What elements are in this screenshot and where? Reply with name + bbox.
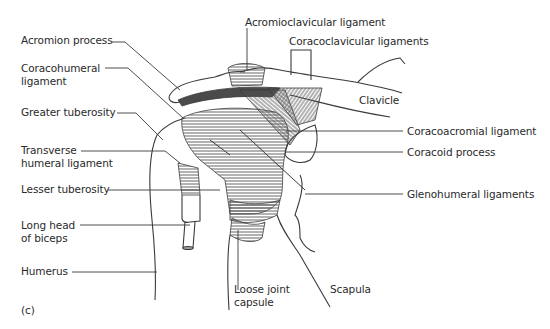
label-transverse-humeral-1: Transverse (21, 144, 77, 157)
label-long-head-biceps-1: Long head (21, 219, 75, 232)
label-long-head-biceps-2: of biceps (21, 232, 68, 245)
label-coracoid-process: Coracoid process (407, 146, 495, 159)
label-clavicle: Clavicle (359, 94, 399, 107)
label-humerus: Humerus (21, 265, 68, 278)
label-coracoclavicular-ligaments: Coracoclavicular ligaments (289, 35, 429, 48)
label-loose-joint-capsule-2: capsule (234, 296, 274, 309)
label-acromioclavicular-ligament: Acromioclavicular ligament (245, 16, 385, 29)
label-acromion-process: Acromion process (21, 34, 113, 47)
label-glenohumeral-ligaments: Glenohumeral ligaments (407, 188, 534, 201)
label-coracoacromial-ligament: Coracoacromial ligament (407, 125, 536, 138)
label-lesser-tuberosity: Lesser tuberosity (21, 183, 110, 196)
label-coracohumeral-ligament-2: ligament (21, 75, 67, 88)
label-greater-tuberosity: Greater tuberosity (21, 106, 116, 119)
label-transverse-humeral-2: humeral ligament (21, 157, 113, 170)
label-coracohumeral-ligament-1: Coracohumeral (21, 62, 100, 75)
label-loose-joint-capsule-1: Loose joint (234, 283, 290, 296)
label-scapula: Scapula (330, 283, 371, 296)
panel-label: (c) (21, 304, 35, 317)
